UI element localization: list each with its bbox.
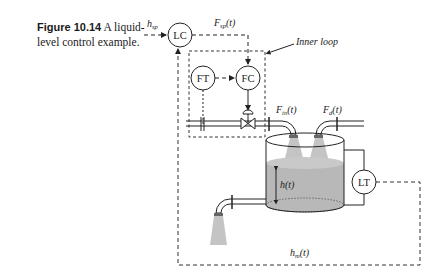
liquid-level-control-diagram: hsp Fsp(t) Inner loop hm(t) <box>0 0 440 275</box>
setpoint-input-hsp: hsp <box>144 18 166 35</box>
flow-controller-fc: FC <box>236 66 260 90</box>
svg-text:Inner loop: Inner loop <box>295 36 338 47</box>
inner-loop-label: Inner loop <box>268 36 338 53</box>
svg-text:LT: LT <box>358 177 370 188</box>
svg-text:hsp: hsp <box>147 18 159 30</box>
svg-text:LC: LC <box>173 30 186 41</box>
label-h-t: h(t) <box>280 179 295 191</box>
label-hm: hm(t) <box>290 247 310 259</box>
signal-fsp: Fsp(t) <box>192 17 248 64</box>
outflow-spray <box>210 216 227 245</box>
svg-text:FT: FT <box>197 73 210 84</box>
svg-text:FC: FC <box>242 73 255 84</box>
outlet-pipe <box>210 195 266 245</box>
label-fd: Fd(t) <box>322 104 342 116</box>
disturbance-pipe <box>314 117 364 138</box>
lt-sensor-line-bottom <box>344 194 364 205</box>
tank: h(t) <box>266 133 344 212</box>
label-fin: Fin(t) <box>275 104 297 116</box>
lt-sensor-line-top <box>344 150 364 170</box>
flow-transmitter-ft: FT <box>191 66 215 90</box>
svg-text:Fsp(t): Fsp(t) <box>213 17 236 29</box>
level-transmitter-lt: LT <box>352 170 376 194</box>
level-controller-lc: LC <box>168 23 192 47</box>
